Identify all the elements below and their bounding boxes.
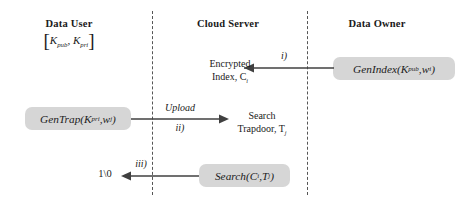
note-encrypted-index-line1: Encrypted bbox=[209, 58, 250, 71]
key-pair-expression: [Kpub, Kpri] bbox=[43, 34, 94, 48]
k-pri-base: K bbox=[73, 34, 80, 46]
lane-divider-server-owner bbox=[307, 11, 308, 195]
note-encrypted-index-subscript: i bbox=[246, 77, 248, 84]
algorithm-box-search[interactable]: Search(Ci, Tj) bbox=[199, 164, 290, 187]
diagram-canvas: Data User Cloud Server Data Owner [Kpub,… bbox=[0, 0, 461, 209]
arrow-label-upload: Upload bbox=[165, 102, 195, 113]
note-search-trapdoor-subscript: j bbox=[285, 129, 287, 136]
arrow-step-iii bbox=[121, 170, 200, 182]
note-search-trapdoor: Search Trapdoor, Tj bbox=[237, 110, 286, 139]
gentrap-arg1-base: K bbox=[84, 113, 92, 125]
search-paren-close: ) bbox=[270, 170, 274, 182]
note-encrypted-index: Encrypted Index, Ci bbox=[209, 58, 250, 87]
note-search-trapdoor-base: Trapdoor, T bbox=[237, 123, 284, 134]
step-label-ii: ii) bbox=[176, 122, 185, 133]
note-search-trapdoor-line1: Search bbox=[237, 110, 286, 123]
note-encrypted-index-line2: Index, Ci bbox=[209, 71, 250, 88]
note-encrypted-index-base: Index, C bbox=[212, 71, 246, 82]
gentrap-arg1-subscript: pri bbox=[92, 115, 100, 123]
column-header-data-user: Data User bbox=[46, 18, 93, 29]
genindex-arg1-subscript: pub bbox=[408, 65, 419, 73]
note-search-result: 1\0 bbox=[98, 168, 111, 179]
gentrap-name: GenTrap bbox=[40, 113, 80, 125]
genindex-arg2-base: w bbox=[422, 63, 430, 75]
lane-divider-user-server bbox=[152, 11, 153, 195]
note-search-trapdoor-line2: Trapdoor, Tj bbox=[237, 123, 286, 140]
algorithm-box-gentrap[interactable]: GenTrap(Kpri, wj) bbox=[25, 107, 131, 130]
step-label-i: i) bbox=[281, 50, 287, 61]
search-arg1-base: C bbox=[250, 170, 258, 182]
genindex-paren-close: ) bbox=[431, 63, 435, 75]
k-pub-subscript: pub bbox=[57, 41, 67, 48]
column-header-data-owner: Data Owner bbox=[348, 18, 405, 29]
bracket-close: ] bbox=[88, 30, 94, 51]
k-pub-base: K bbox=[50, 34, 57, 46]
search-name: Search bbox=[215, 170, 246, 182]
algorithm-box-genindex[interactable]: GenIndex(Kpub, wi) bbox=[333, 57, 455, 80]
column-header-cloud-server: Cloud Server bbox=[197, 18, 259, 29]
step-label-iii: iii) bbox=[135, 158, 147, 169]
gentrap-paren-close: ) bbox=[112, 113, 116, 125]
k-pri-subscript: pri bbox=[80, 41, 88, 48]
genindex-name: GenIndex bbox=[353, 63, 397, 75]
